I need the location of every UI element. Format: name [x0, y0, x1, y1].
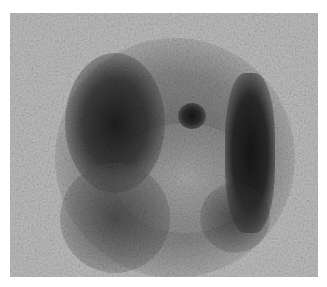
- grain-texture: [10, 13, 318, 277]
- scan-image: [10, 13, 318, 277]
